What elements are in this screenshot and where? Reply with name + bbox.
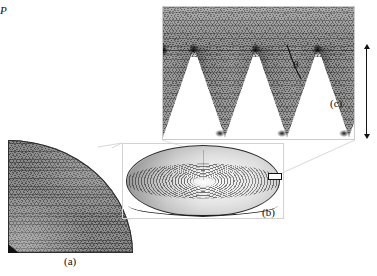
- theta-symbol-label: θ: [293, 58, 298, 70]
- disc-center-hub: [189, 176, 219, 188]
- panel-label-c: (c): [330, 97, 342, 109]
- detail-region-box: [268, 173, 282, 180]
- quarter-disc-left-edge: [8, 140, 9, 253]
- arrowhead-down-icon: [364, 134, 370, 139]
- pitch-symbol-label: P: [0, 4, 7, 16]
- panel-b-full-disc: [126, 145, 280, 217]
- quarter-disc-bottom-edge: [8, 252, 133, 253]
- figure-canvas: (a) (b): [0, 0, 377, 276]
- dimension-line: [366, 47, 367, 136]
- panel-label-a: (a): [64, 255, 76, 267]
- panel-c-frame: [162, 6, 355, 140]
- panel-a-quarter-disc-mesh: [8, 140, 133, 253]
- theta-arc: [163, 7, 355, 140]
- shading-overlay: [8, 140, 133, 253]
- panel-label-b: (b): [262, 206, 275, 218]
- pitch-dimension-arrow: [362, 44, 372, 139]
- disc-center-axis-line: [203, 150, 204, 180]
- quarter-disc-body: [8, 140, 133, 253]
